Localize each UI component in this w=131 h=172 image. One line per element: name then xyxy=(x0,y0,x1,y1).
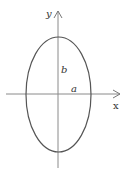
y-axis-label: y xyxy=(45,8,52,19)
ellipse-diagram: y x b a xyxy=(0,0,131,172)
y-axis xyxy=(54,11,62,168)
semi-axis-a-label: a xyxy=(71,83,77,94)
semi-axis-b-label: b xyxy=(61,64,67,75)
x-axis xyxy=(6,90,120,98)
x-axis-label: x xyxy=(113,100,119,111)
